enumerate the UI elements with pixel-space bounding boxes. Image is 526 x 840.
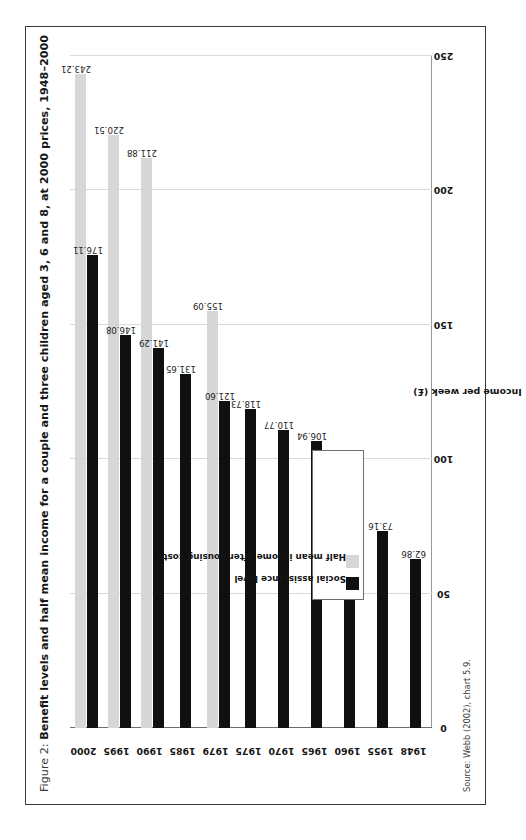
bar-group: 243.21176.11	[70, 56, 103, 728]
category-label-1975: 1975	[232, 746, 266, 757]
category-label-1990: 1990	[133, 746, 167, 757]
bar-half-mean-income	[141, 158, 152, 728]
bar-social-assistance	[377, 531, 388, 728]
bar-value-label: 106.94	[297, 431, 327, 441]
legend-swatch-dark	[346, 577, 359, 590]
value-axis-tick-label: 150	[424, 319, 464, 330]
legend-swatch-light	[346, 555, 359, 568]
bar-social-assistance	[219, 401, 230, 728]
value-axis-tick-label: 0	[424, 723, 464, 734]
value-axis-tick-label: 50	[424, 588, 464, 599]
bar-social-assistance	[410, 559, 421, 728]
bar-group: 118.73	[235, 56, 268, 728]
figure-number: Figure 2:	[38, 740, 51, 792]
bar-value-label: 146.08	[106, 325, 136, 335]
bar-social-assistance	[245, 409, 256, 728]
bar-group: 73.16	[366, 56, 399, 728]
figure-frame: Figure 2: Benefit levels and half mean i…	[25, 26, 486, 805]
category-label-2000: 2000	[67, 746, 101, 757]
bar-value-label: 176.11	[73, 245, 103, 255]
category-label-1995: 1995	[100, 746, 134, 757]
category-label-1979: 1979	[199, 746, 233, 757]
bar-value-label: 62.86	[401, 549, 426, 559]
chart-canvas: 62.8673.1685.12106.94110.77118.73155.091…	[70, 56, 432, 728]
figure-source: Source: Webb (2002), chart 5.9.	[462, 392, 472, 792]
bar-value-label: 110.77	[264, 420, 294, 430]
bar-group: 211.88141.29	[136, 56, 169, 728]
bar-value-label: 141.29	[139, 338, 169, 348]
category-label-1948: 1948	[396, 746, 430, 757]
bar-group: 106.94	[300, 56, 333, 728]
category-label-1960: 1960	[330, 746, 364, 757]
bar-social-assistance	[87, 255, 98, 728]
value-axis-tick-label: 100	[424, 454, 464, 465]
chart-legend: Social assistance levelHalf mean income …	[312, 450, 364, 600]
bar-value-label: 73.16	[369, 521, 394, 531]
category-label-1970: 1970	[264, 746, 298, 757]
figure-title-text: Benefit levels and half mean income for …	[38, 35, 51, 740]
bar-half-mean-income	[108, 135, 119, 728]
value-axis-title: Income per week (£)	[408, 387, 526, 398]
bar-half-mean-income	[207, 311, 218, 728]
bar-value-label: 243.21	[61, 64, 91, 74]
value-axis-tick-label: 200	[424, 185, 464, 196]
value-axis-tick-label: 250	[424, 51, 464, 62]
bar-group: 220.51146.08	[103, 56, 136, 728]
bar-value-label: 121.60	[205, 391, 235, 401]
bar-social-assistance	[120, 335, 131, 728]
bar-group: 131.65	[169, 56, 202, 728]
rotated-figure-stage: Figure 2: Benefit levels and half mean i…	[26, 27, 487, 806]
chart-plot-area: 62.8673.1685.12106.94110.77118.73155.091…	[70, 56, 432, 728]
bar-value-label: 131.65	[166, 364, 196, 374]
legend-label: Half mean income after housing costs	[158, 552, 346, 562]
figure-title: Figure 2: Benefit levels and half mean i…	[38, 42, 51, 792]
bar-group: 155.09121.60	[202, 56, 235, 728]
bar-half-mean-income	[75, 74, 86, 728]
bar-group: 85.12	[333, 56, 366, 728]
category-label-1965: 1965	[297, 746, 331, 757]
legend-label: Social assistance level	[234, 574, 346, 584]
category-label-1985: 1985	[166, 746, 200, 757]
bar-value-label: 118.73	[231, 399, 261, 409]
category-label-1955: 1955	[363, 746, 397, 757]
bar-group: 110.77	[267, 56, 300, 728]
bar-social-assistance	[153, 348, 164, 728]
